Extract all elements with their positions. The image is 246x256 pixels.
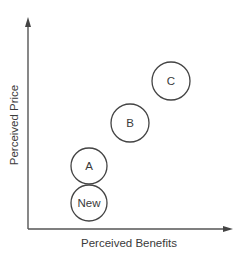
point-c: C (152, 62, 190, 100)
y-axis-arrow-icon (25, 17, 31, 27)
x-axis-arrow-icon (223, 226, 233, 232)
label-new: New (77, 197, 101, 209)
point-new: New (71, 185, 107, 221)
point-a: A (71, 148, 107, 184)
positioning-chart: Perceived Benefits Perceived Price New A… (0, 0, 246, 256)
label-a: A (85, 160, 93, 172)
label-c: C (167, 75, 175, 87)
point-b: B (111, 104, 149, 142)
y-axis-title: Perceived Price (8, 85, 20, 166)
x-axis-title: Perceived Benefits (81, 237, 177, 249)
label-b: B (126, 117, 134, 129)
